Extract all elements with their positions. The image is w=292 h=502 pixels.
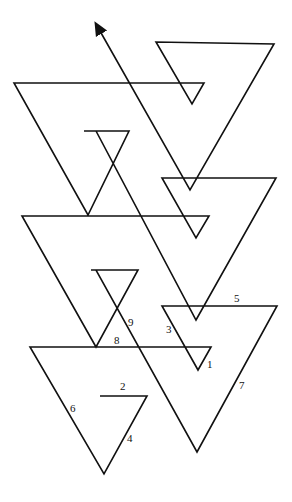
- spiral-path: [14, 24, 277, 474]
- label-9: 9: [128, 317, 134, 328]
- spiral-triangle-diagram: [0, 0, 292, 502]
- label-6: 6: [70, 403, 76, 414]
- label-4: 4: [127, 433, 133, 444]
- label-5: 5: [234, 293, 240, 304]
- label-1: 1: [207, 359, 213, 370]
- label-7: 7: [239, 380, 245, 391]
- label-3: 3: [166, 324, 172, 335]
- label-2: 2: [120, 381, 126, 392]
- label-8: 8: [114, 335, 120, 346]
